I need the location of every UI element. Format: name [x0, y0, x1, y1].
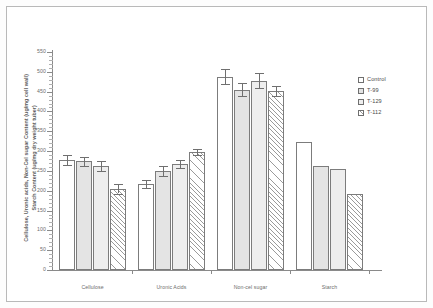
- legend-item-t-129[interactable]: T-129: [358, 96, 420, 107]
- y-axis-minor-tick: [49, 167, 53, 168]
- y-axis-tick: [47, 230, 53, 231]
- y-axis-minor-tick: [49, 115, 53, 116]
- error-bar-cap: [272, 96, 281, 97]
- y-axis-minor-tick: [49, 266, 53, 267]
- legend-label: Control: [367, 77, 386, 83]
- y-axis-tick: [47, 191, 53, 192]
- y-axis-minor-tick: [49, 262, 53, 263]
- legend-swatch-icon: [358, 88, 364, 94]
- y-axis-minor-tick: [49, 159, 53, 160]
- legend-swatch-icon: [358, 110, 364, 116]
- y-axis-minor-tick: [49, 234, 53, 235]
- error-bar-cap: [63, 155, 72, 156]
- y-axis-minor-tick: [49, 195, 53, 196]
- error-bar-cap: [142, 180, 151, 181]
- y-axis-minor-tick: [49, 68, 53, 69]
- error-bar: [242, 83, 243, 96]
- y-axis-minor-tick: [49, 64, 53, 65]
- error-bar: [101, 161, 102, 171]
- y-axis-minor-tick: [49, 135, 53, 136]
- y-axis-tick: [47, 270, 53, 271]
- y-axis-title: Cellulose, Uronic acids, Non-Cel sugar C…: [23, 43, 39, 273]
- y-axis-title-line1: Cellulose, Uronic acids, Non-Cel sugar C…: [23, 43, 31, 273]
- legend-swatch-icon: [358, 99, 364, 105]
- error-bar-cap: [255, 88, 264, 89]
- y-axis-minor-tick: [49, 147, 53, 148]
- error-bar-cap: [159, 166, 168, 167]
- x-axis-label-starch: Starch: [290, 284, 370, 290]
- figure-container: 050100150200250300350400450500550 Cellul…: [0, 0, 433, 308]
- error-bar-cap: [272, 86, 281, 87]
- y-axis-minor-tick: [49, 143, 53, 144]
- x-axis-tick: [290, 270, 291, 274]
- y-axis-minor-tick: [49, 104, 53, 105]
- legend-label: T-112: [367, 110, 381, 116]
- y-axis-tick: [47, 92, 53, 93]
- legend-swatch-icon: [358, 77, 364, 83]
- y-axis-tick: [47, 211, 53, 212]
- y-axis-tick: [47, 131, 53, 132]
- error-bar: [259, 73, 260, 87]
- y-axis-minor-tick: [49, 60, 53, 61]
- y-axis-minor-tick: [49, 254, 53, 255]
- error-bar-cap: [63, 165, 72, 166]
- bar-uronic-acids-t-129: [172, 164, 188, 270]
- error-bar-cap: [193, 149, 202, 150]
- bar-cellulose-t-112: [110, 189, 126, 270]
- x-axis-label-non-cel-sugar: Non-cel sugar: [211, 284, 291, 290]
- error-bar-cap: [114, 184, 123, 185]
- error-bar: [67, 155, 68, 165]
- y-axis-minor-tick: [49, 155, 53, 156]
- bar-starch-t-99: [313, 166, 329, 270]
- bar-cellulose-t-129: [93, 166, 109, 270]
- bar-starch-control: [296, 142, 312, 270]
- x-axis-label-uronic-acids: Uronic Acids: [132, 284, 212, 290]
- bar-uronic-acids-t-112: [189, 152, 205, 270]
- bar-non-cel-sugar-t-99: [234, 90, 250, 270]
- error-bar-cap: [176, 168, 185, 169]
- y-axis-minor-tick: [49, 163, 53, 164]
- y-axis-minor-tick: [49, 100, 53, 101]
- error-bar-cap: [221, 84, 230, 85]
- bar-non-cel-sugar-t-129: [251, 81, 267, 270]
- error-bar-cap: [221, 69, 230, 70]
- y-axis-minor-tick: [49, 203, 53, 204]
- bar-cellulose-t-99: [76, 161, 92, 270]
- y-axis-minor-tick: [49, 84, 53, 85]
- legend-item-t-112[interactable]: T-112: [358, 107, 420, 118]
- legend-item-t-99[interactable]: T-99: [358, 85, 420, 96]
- y-axis-tick: [47, 52, 53, 53]
- error-bar-cap: [238, 83, 247, 84]
- error-bar: [84, 157, 85, 167]
- y-axis-minor-tick: [49, 127, 53, 128]
- error-bar-cap: [159, 176, 168, 177]
- error-bar-cap: [97, 161, 106, 162]
- bar-non-cel-sugar-t-112: [268, 91, 284, 270]
- y-axis-minor-tick: [49, 107, 53, 108]
- y-axis-tick: [47, 250, 53, 251]
- y-axis-minor-tick: [49, 226, 53, 227]
- error-bar-cap: [97, 171, 106, 172]
- y-axis-minor-tick: [49, 119, 53, 120]
- error-bar-cap: [80, 157, 89, 158]
- error-bar-cap: [193, 155, 202, 156]
- bar-non-cel-sugar-control: [217, 77, 233, 270]
- y-axis-minor-tick: [49, 183, 53, 184]
- y-axis-minor-tick: [49, 187, 53, 188]
- error-bar: [118, 184, 119, 194]
- legend-label: T-129: [367, 99, 382, 105]
- x-axis-tick: [369, 270, 370, 274]
- bar-cellulose-control: [59, 160, 75, 270]
- y-axis-minor-tick: [49, 238, 53, 239]
- y-axis-minor-tick: [49, 88, 53, 89]
- y-axis-minor-tick: [49, 246, 53, 247]
- legend-item-control[interactable]: Control: [358, 74, 420, 85]
- x-axis-line: [52, 270, 382, 271]
- error-bar-cap: [255, 73, 264, 74]
- x-axis-tick: [211, 270, 212, 274]
- error-bar-cap: [176, 160, 185, 161]
- x-axis-tick: [132, 270, 133, 274]
- y-axis-minor-tick: [49, 215, 53, 216]
- y-axis-tick: [47, 171, 53, 172]
- x-axis-label-cellulose: Cellulose: [53, 284, 133, 290]
